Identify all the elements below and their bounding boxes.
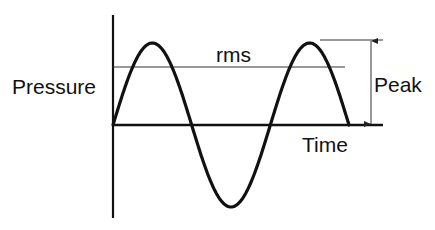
y-axis-label: Pressure bbox=[12, 75, 96, 98]
pressure-waveform-diagram: Pressure Time rms Peak bbox=[0, 0, 435, 230]
x-axis-label: Time bbox=[302, 133, 348, 156]
rms-label: rms bbox=[216, 43, 251, 66]
peak-label: Peak bbox=[374, 73, 422, 96]
